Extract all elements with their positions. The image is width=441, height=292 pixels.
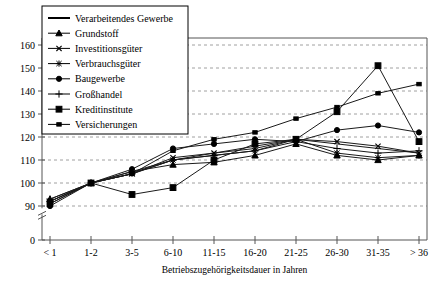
x-tick-label: 26-30: [325, 247, 348, 258]
marker-square-small: [294, 117, 298, 120]
marker-square-small: [57, 123, 61, 126]
x-tick-label: > 36: [410, 247, 428, 258]
legend: Verarbeitendes GewerbeGrundstoffInvestit…: [42, 6, 188, 134]
series-line: [50, 139, 419, 201]
series-line: [50, 139, 419, 201]
y-tick-label: 150: [20, 63, 35, 74]
legend-label: Verarbeitendes Gewerbe: [75, 13, 174, 24]
series-line: [50, 139, 419, 203]
y-tick-label: 120: [20, 132, 35, 143]
y-tick-label: 160: [20, 40, 35, 51]
marker-square: [129, 192, 135, 198]
marker-square-small: [171, 149, 175, 152]
x-tick-label: 3-5: [125, 247, 138, 258]
series-line: [50, 142, 419, 200]
x-tick-label: 16-20: [243, 247, 266, 258]
series-line: [50, 126, 419, 207]
legend-label: Kreditinstitute: [75, 104, 133, 115]
marker-square: [252, 141, 258, 147]
legend-label: Baugewerbe: [75, 73, 126, 84]
marker-square-small: [376, 92, 380, 95]
marker-square: [375, 63, 381, 69]
marker-square-small: [335, 105, 339, 108]
marker-circle: [56, 76, 61, 81]
marker-square: [170, 185, 176, 191]
marker-circle: [375, 123, 380, 128]
marker-square-small: [130, 172, 134, 175]
x-tick-label: 6-10: [164, 247, 182, 258]
marker-circle: [334, 128, 339, 133]
marker-square: [293, 136, 299, 142]
line-chart: 090100110120130140150160< 11-23-56-1011-…: [0, 0, 441, 292]
series-3: [47, 136, 422, 204]
marker-square-small: [89, 181, 93, 184]
marker-circle: [416, 130, 421, 135]
series-0: [50, 139, 419, 201]
y-tick-label: 140: [20, 86, 35, 97]
y-tick-label: 100: [20, 178, 35, 189]
x-axis-title: Betriebszugehörigkeitsdauer in Jahren: [162, 265, 308, 275]
x-tick-label: 1-2: [84, 247, 97, 258]
marker-star-x: [56, 61, 62, 67]
legend-label: Investitionsgüter: [75, 43, 143, 54]
marker-square: [334, 109, 340, 115]
chart-container: 090100110120130140150160< 11-23-56-1011-…: [0, 0, 441, 292]
y-tick-label: 90: [25, 201, 35, 212]
marker-square-small: [212, 138, 216, 141]
legend-label: Verbrauchsgüter: [75, 58, 141, 69]
legend-label: Versicherungen: [75, 119, 137, 130]
marker-square-small: [48, 200, 52, 203]
legend-label: Grundstoff: [75, 28, 119, 39]
x-tick-label: 31-35: [366, 247, 389, 258]
marker-square: [211, 157, 217, 163]
legend-label: Großhandel: [75, 89, 122, 100]
marker-circle: [211, 141, 216, 146]
y-tick-label: 0: [30, 235, 35, 246]
marker-square: [416, 139, 422, 145]
series-5: [46, 138, 422, 203]
marker-square-small: [253, 131, 257, 134]
y-tick-label: 110: [20, 155, 35, 166]
x-tick-label: 11-15: [203, 247, 226, 258]
marker-square: [56, 106, 62, 112]
y-tick-label: 130: [20, 109, 35, 120]
marker-square-small: [417, 82, 421, 85]
x-tick-label: < 1: [43, 247, 56, 258]
x-tick-label: 21-25: [284, 247, 307, 258]
